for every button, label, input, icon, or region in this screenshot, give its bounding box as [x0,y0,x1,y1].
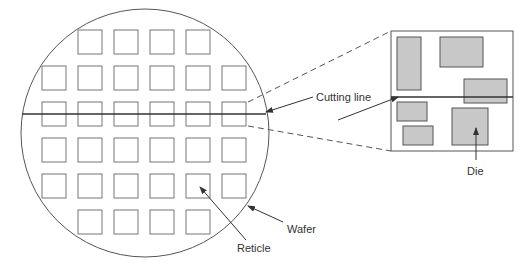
wafer-diagram: Cutting line Die Wafer Reticle [0,0,530,271]
reticle [186,30,210,54]
die [403,126,433,145]
reticle [78,174,102,198]
reticle [78,210,102,234]
reticle [78,66,102,90]
die-label: Die [467,165,484,177]
reticle [114,174,138,198]
reticle [114,210,138,234]
reticle [114,138,138,162]
die [397,37,421,90]
reticle [42,174,66,198]
wafer-arrow [248,206,283,222]
die [397,102,427,121]
reticle [78,138,102,162]
reticle [186,210,210,234]
reticle [42,66,66,90]
reticle [222,138,246,162]
wafer-outline [21,9,269,257]
reticle-grid [42,30,246,234]
die [440,37,483,67]
reticle [114,30,138,54]
reticle [186,66,210,90]
reticle [150,66,174,90]
reticle [150,174,174,198]
die [464,79,507,103]
reticle [222,66,246,90]
cutting-line-label: Cutting line [316,91,371,103]
reticle [150,210,174,234]
reticle-label: Reticle [237,242,271,254]
reticle [222,174,246,198]
reticle [186,138,210,162]
reticle [150,30,174,54]
reticle [42,138,66,162]
wafer-label: Wafer [287,223,316,235]
reticle [78,30,102,54]
reticle [114,66,138,90]
reticle [150,138,174,162]
cutting-line-arrow-wafer [266,97,313,112]
projection-line-bottom [248,126,391,151]
die [452,108,488,145]
